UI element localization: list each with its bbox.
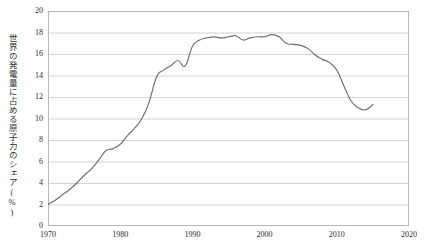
- x-tick-2020: 2020: [401, 231, 417, 239]
- x-tick-1980: 1980: [112, 231, 128, 239]
- x-tick-1990: 1990: [184, 231, 200, 239]
- nuclear-share-line-chart: 世界の発電量に占める原子力のシェア(%) 20181614121086420 1…: [0, 0, 424, 249]
- series-line-nuclear-share: [48, 35, 373, 205]
- plot-svg: [48, 11, 409, 226]
- x-tick-1970: 1970: [40, 231, 56, 239]
- plot-area: [48, 11, 409, 226]
- x-tick-2000: 2000: [257, 231, 273, 239]
- gridlines: [48, 12, 409, 206]
- x-tick-2010: 2010: [329, 231, 345, 239]
